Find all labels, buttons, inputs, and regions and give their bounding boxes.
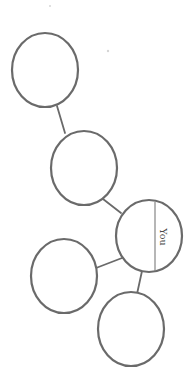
edge-node2-you [103, 199, 121, 213]
relationship-diagram [0, 0, 190, 376]
edge-you-node4 [96, 258, 122, 268]
node-circle-4[interactable] [31, 239, 97, 313]
node-circle-1[interactable] [12, 33, 78, 107]
scan-speck [107, 50, 109, 52]
scan-speck [49, 5, 51, 7]
node-circle-you[interactable] [116, 200, 182, 272]
edge-node1-node2 [57, 106, 65, 133]
node-circle-5[interactable] [98, 292, 164, 366]
you-label: You [155, 228, 171, 246]
node-circle-2[interactable] [51, 131, 117, 205]
edge-you-node5 [137, 271, 142, 294]
